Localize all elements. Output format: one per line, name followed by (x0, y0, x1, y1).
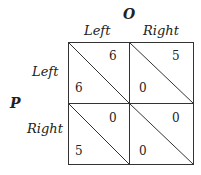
cell-rr-col-payoff: 0 (172, 111, 180, 125)
cell-ll-col-payoff: 6 (109, 49, 117, 63)
matrix-grid (0, 0, 201, 175)
cell-rr-row-payoff: 0 (139, 144, 147, 158)
cell-rl-col-payoff: 0 (109, 111, 117, 125)
cell-lr-col-payoff: 5 (172, 49, 180, 63)
cell-lr-row-payoff: 0 (139, 81, 147, 95)
cell-ll-row-payoff: 6 (75, 81, 83, 95)
cell-rl-row-payoff: 5 (75, 144, 83, 158)
